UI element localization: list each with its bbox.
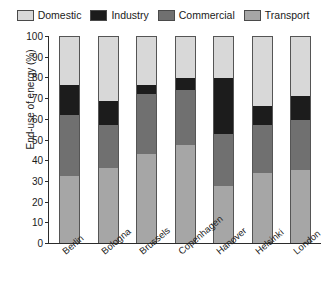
bar-segment-commercial bbox=[59, 115, 80, 176]
bar-segment-industry bbox=[175, 78, 196, 89]
bar-helsinki bbox=[252, 36, 273, 243]
bar-segment-commercial bbox=[98, 125, 119, 168]
bar-segment-industry bbox=[59, 85, 80, 115]
bar-segment-industry bbox=[290, 96, 311, 120]
bar-segment-industry bbox=[213, 78, 234, 134]
legend-swatch-icon bbox=[90, 10, 107, 21]
legend-swatch-icon bbox=[158, 10, 175, 21]
legend-entry-label: Industry bbox=[111, 10, 148, 21]
bar-segment-domestic bbox=[59, 36, 80, 85]
y-axis-tick-mark bbox=[45, 140, 49, 141]
y-axis-tick-label: 50 bbox=[32, 134, 43, 145]
bar-segment-domestic bbox=[252, 36, 273, 106]
bar-segment-commercial bbox=[213, 134, 234, 186]
bar-brussels bbox=[136, 36, 157, 243]
y-axis-tick-label: 10 bbox=[32, 217, 43, 228]
y-axis-tick-label: 80 bbox=[32, 72, 43, 83]
legend-entry-transport: Transport bbox=[244, 10, 310, 21]
y-axis-tick-mark bbox=[45, 98, 49, 99]
y-axis-tick-label: 40 bbox=[32, 155, 43, 166]
bar-segment-domestic bbox=[175, 36, 196, 78]
legend-swatch-icon bbox=[244, 10, 261, 21]
bar-segment-industry bbox=[252, 106, 273, 125]
y-axis-tick-label: 90 bbox=[32, 51, 43, 62]
bar-segment-domestic bbox=[98, 36, 119, 101]
bar-segment-domestic bbox=[136, 36, 157, 85]
y-axis-tick-mark bbox=[45, 222, 49, 223]
bar-segment-transport bbox=[98, 168, 119, 243]
bar-segment-commercial bbox=[175, 90, 196, 145]
bar-segment-commercial bbox=[252, 125, 273, 173]
y-axis-tick-mark bbox=[45, 181, 49, 182]
y-axis-tick-label: 20 bbox=[32, 196, 43, 207]
bar-segment-industry bbox=[136, 85, 157, 94]
bar-segment-domestic bbox=[290, 36, 311, 96]
bar-segment-transport bbox=[136, 154, 157, 243]
bar-segment-industry bbox=[98, 101, 119, 125]
bar-segment-domestic bbox=[213, 36, 234, 78]
y-axis-tick-label: 60 bbox=[32, 113, 43, 124]
bar-segment-transport bbox=[252, 173, 273, 243]
bar-hanover bbox=[213, 36, 234, 243]
chart-legend: DomesticIndustryCommercialTransport bbox=[0, 4, 326, 26]
bar-segment-commercial bbox=[290, 120, 311, 170]
y-axis-tick-mark bbox=[45, 57, 49, 58]
bar-segment-transport bbox=[290, 170, 311, 243]
legend-entry-label: Commercial bbox=[179, 10, 235, 21]
y-axis-tick-label: 30 bbox=[32, 175, 43, 186]
y-axis-tick-mark bbox=[45, 119, 49, 120]
y-axis-tick-label: 70 bbox=[32, 93, 43, 104]
legend-entry-label: Domestic bbox=[38, 10, 82, 21]
bar-berlin bbox=[59, 36, 80, 243]
y-axis-tick-mark bbox=[45, 160, 49, 161]
y-axis-tick-label: 0 bbox=[37, 238, 43, 249]
bar-copenhagen bbox=[175, 36, 196, 243]
y-axis-tick-label: 100 bbox=[26, 31, 43, 42]
bar-segment-transport bbox=[175, 145, 196, 243]
bar-london bbox=[290, 36, 311, 243]
y-axis-tick-mark bbox=[45, 243, 49, 244]
y-axis-tick-mark bbox=[45, 77, 49, 78]
legend-entry-industry: Industry bbox=[90, 10, 148, 21]
plot-area: 0102030405060708090100 bbox=[49, 36, 321, 243]
legend-entry-label: Transport bbox=[265, 10, 310, 21]
y-axis-tick-mark bbox=[45, 202, 49, 203]
legend-entry-commercial: Commercial bbox=[158, 10, 235, 21]
y-axis-tick-mark bbox=[45, 36, 49, 37]
bar-bologna bbox=[98, 36, 119, 243]
chart-figure: DomesticIndustryCommercialTransport End-… bbox=[0, 0, 326, 304]
bar-segment-commercial bbox=[136, 94, 157, 154]
